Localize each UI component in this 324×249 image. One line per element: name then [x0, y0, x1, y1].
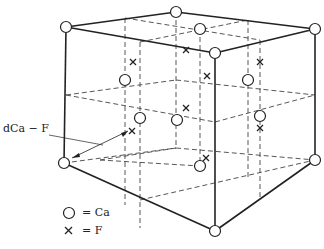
- ca-ion: [59, 158, 70, 169]
- ca-ion: [210, 226, 221, 237]
- distance-arrow: [49, 131, 128, 158]
- ca-ion: [135, 113, 146, 124]
- legend-ca-icon: [64, 208, 75, 219]
- ca-ion: [61, 22, 72, 33]
- ca-ion: [195, 24, 206, 35]
- fluoride-ions: [129, 47, 263, 161]
- ca-ion: [171, 7, 182, 18]
- legend-ca-label: = Ca: [82, 206, 110, 219]
- ca-ion: [243, 75, 254, 86]
- legend-f-label: = F: [82, 224, 102, 237]
- cube-edges: [64, 12, 315, 231]
- ca-ion: [172, 115, 183, 126]
- ca-ion: [310, 24, 321, 35]
- ca-ion: [210, 48, 221, 59]
- ca-ion: [120, 75, 131, 86]
- f-ion: [203, 155, 209, 161]
- legend-f-icon: [65, 227, 72, 234]
- ca-ion: [310, 155, 321, 166]
- f-ion: [129, 128, 135, 134]
- f-ion: [204, 73, 210, 79]
- calcium-ions: [59, 7, 321, 237]
- ca-ion: [255, 111, 266, 122]
- ca-ion: [195, 161, 206, 172]
- f-ion: [183, 105, 189, 111]
- distance-label: dCa − F: [3, 122, 49, 135]
- f-ion: [130, 59, 136, 65]
- dashed-grid: [64, 12, 315, 228]
